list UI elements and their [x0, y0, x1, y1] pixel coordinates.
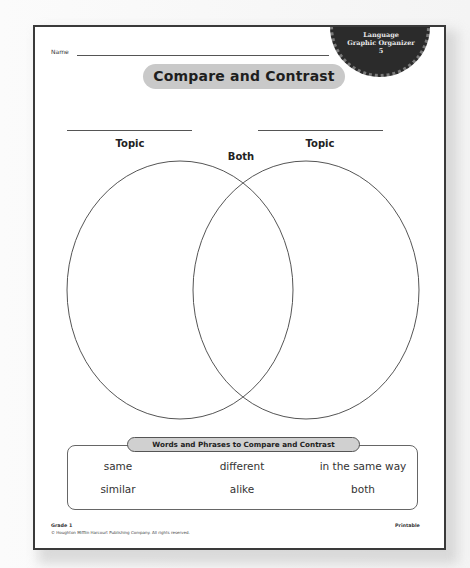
grade-label: Grade 1: [51, 523, 72, 528]
copyright-text: © Houghton Mifflin Harcourt Publishing C…: [51, 530, 190, 535]
word-bank-title: Words and Phrases to Compare and Contras…: [127, 437, 360, 452]
word-same: same: [63, 460, 173, 472]
left-circle[interactable]: [67, 161, 293, 419]
word-similar: similar: [63, 483, 173, 495]
word-bank-box: [67, 445, 418, 510]
printable-label: Printable: [395, 523, 420, 528]
word-different: different: [187, 460, 297, 472]
word-both: both: [308, 483, 418, 495]
right-circle[interactable]: [193, 161, 419, 419]
word-in-the-same-way: in the same way: [303, 460, 423, 472]
worksheet-page: Language Graphic Organizer 5 Name Compar…: [33, 25, 446, 550]
word-alike: alike: [187, 483, 297, 495]
